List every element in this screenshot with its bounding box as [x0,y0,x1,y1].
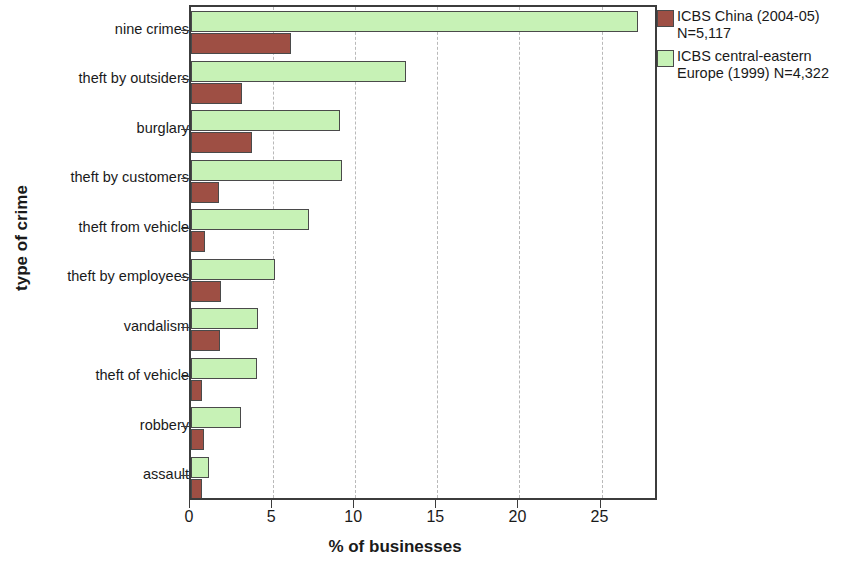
legend-swatch-green [657,50,674,67]
x-tick-mark [435,500,436,508]
y-tick-label: burglary [137,120,189,136]
legend-swatch-brown [657,10,674,27]
y-tick-label: nine crimes [115,21,189,37]
y-tick-label: theft by customers [71,169,189,185]
y-tick-mark [181,30,190,31]
bar-china [191,33,291,54]
legend: ICBS China (2004-05) N=5,117ICBS central… [657,8,848,88]
bar-group [191,304,655,354]
y-tick-mark [181,79,190,80]
y-tick-label: robbery [140,417,189,433]
bar-group [191,354,655,404]
y-tick-mark [181,129,190,130]
bar-europe [191,209,309,230]
bar-europe [191,11,638,32]
y-tick-mark [181,327,190,328]
bar-group [191,156,655,206]
y-tick-label: theft by outsiders [79,70,189,86]
x-tick-mark [600,500,601,508]
legend-entry: ICBS central-eastern Europe (1999) N=4,3… [657,48,848,82]
y-tick-label: theft by employees [67,268,189,284]
x-tick-mark [189,500,190,508]
x-tick-label: 20 [497,508,537,526]
x-tick-mark [353,500,354,508]
bar-china [191,380,202,401]
bar-europe [191,407,241,428]
bar-group [191,255,655,305]
x-tick-label: 5 [251,508,291,526]
y-tick-label: theft of vehicle [96,367,190,383]
bar-group [191,106,655,156]
x-axis-title: % of businesses [190,537,600,557]
plot-area [189,5,657,500]
bar-europe [191,259,275,280]
y-tick-mark [181,277,190,278]
x-tick-label: 10 [333,508,373,526]
x-tick-mark [517,500,518,508]
y-tick-mark [181,228,190,229]
bar-europe [191,358,257,379]
bar-europe [191,308,258,329]
bar-group [191,57,655,107]
bar-china [191,479,202,498]
y-tick-label: vandalism [124,318,189,334]
x-tick-mark [271,500,272,508]
bar-chart: type of crime % of businesses nine crime… [0,0,848,568]
bar-china [191,132,252,153]
y-tick-mark [181,426,190,427]
bar-china [191,281,221,302]
x-tick-label: 15 [415,508,455,526]
y-tick-mark [181,475,190,476]
bar-group [191,7,655,57]
x-tick-label: 0 [169,508,209,526]
y-tick-mark [181,178,190,179]
bar-china [191,83,242,104]
bar-europe [191,110,340,131]
bar-europe [191,61,406,82]
x-tick-label: 25 [580,508,620,526]
y-tick-mark [181,376,190,377]
bar-europe [191,457,209,478]
y-tick-label: theft from vehicle [79,219,189,235]
y-tick-label: assault [143,466,189,482]
bar-china [191,182,219,203]
bar-group [191,403,655,453]
y-axis-title: type of crime [12,148,32,328]
bar-china [191,429,204,450]
bar-group [191,205,655,255]
legend-entry: ICBS China (2004-05) N=5,117 [657,8,848,42]
plot-inner [191,7,655,498]
legend-label: ICBS China (2004-05) N=5,117 [677,8,820,42]
bar-group [191,453,655,499]
legend-label: ICBS central-eastern Europe (1999) N=4,3… [677,48,829,82]
bar-china [191,330,220,351]
bar-china [191,231,205,252]
bar-europe [191,160,342,181]
